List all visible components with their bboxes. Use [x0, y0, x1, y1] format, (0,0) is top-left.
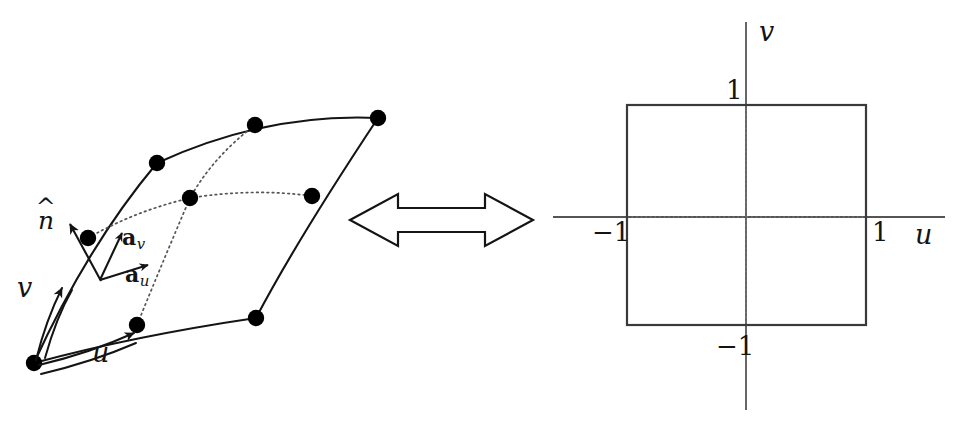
surface-node-center: [182, 190, 198, 206]
tick-label-u-max: 1: [872, 219, 889, 245]
surface-node-corner: [370, 110, 386, 126]
edge-top: [157, 118, 378, 163]
surface-node-mid-edge: [129, 317, 145, 333]
normal-vector-label: ^n: [38, 208, 54, 233]
axis-v-label: v: [759, 18, 774, 45]
double-headed-arrow-shape: [350, 194, 533, 246]
figure-root: ^n av au v u v u 1 −1 −1 1: [0, 0, 967, 427]
tangent-vector-au-label: au: [125, 263, 149, 289]
tick-label-v-min: −1: [716, 333, 754, 359]
surface-node-mid-edge: [304, 188, 320, 204]
parametric-direction-v-label: v: [17, 274, 32, 301]
tick-label-u-min: −1: [592, 219, 630, 245]
surface-node-mid-edge: [247, 117, 263, 133]
axis-u-label: u: [915, 221, 932, 248]
tangent-vector-av-label: av: [122, 226, 145, 252]
curved-surface-element: [26, 110, 386, 374]
double-headed-arrow: [350, 194, 533, 246]
isoline-u-constant: [137, 125, 255, 325]
parametric-direction-u-arrow: [39, 333, 136, 374]
figure-canvas: [0, 0, 967, 427]
parametric-direction-u-label: u: [92, 339, 109, 366]
surface-node-corner: [149, 155, 165, 171]
tick-label-v-max: 1: [726, 77, 743, 103]
hat-accent-icon: ^: [36, 196, 56, 220]
tangent-vector-av-arrow: [100, 233, 122, 280]
surface-node-corner: [248, 310, 264, 326]
surface-node-mid-edge: [80, 230, 96, 246]
surface-node-corner: [26, 355, 42, 371]
